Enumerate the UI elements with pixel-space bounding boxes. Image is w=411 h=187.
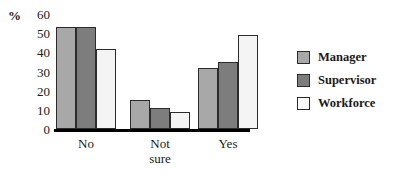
bar-chart: % 6050403020100 ManagerSupervisorWorkfor… — [0, 0, 411, 187]
y-axis-tick-0: 0 — [28, 123, 50, 136]
y-axis-tick-60: 60 — [28, 8, 50, 21]
x-axis-label-line: Yes — [191, 136, 265, 151]
x-axis-label-line: sure — [123, 151, 197, 166]
bar-supervisor-not-sure[interactable] — [150, 108, 170, 129]
bar-manager-no[interactable] — [56, 27, 76, 129]
legend-swatch-manager — [297, 51, 310, 64]
legend-label-supervisor: Supervisor — [318, 73, 376, 88]
bar-group-yes — [198, 14, 258, 129]
legend-label-manager: Manager — [318, 50, 367, 65]
bar-group-no — [56, 14, 116, 129]
x-axis-label-yes: Yes — [191, 136, 265, 151]
legend: ManagerSupervisorWorkforce — [297, 47, 409, 116]
plot-area — [56, 14, 248, 129]
y-axis-tick-50: 50 — [28, 27, 50, 40]
bar-group-not-sure — [130, 14, 190, 129]
y-axis-tick-labels: 6050403020100 — [28, 8, 50, 129]
bar-supervisor-yes[interactable] — [218, 62, 238, 129]
legend-item-manager[interactable]: Manager — [297, 47, 409, 67]
bar-manager-not-sure[interactable] — [130, 100, 150, 129]
legend-swatch-supervisor — [297, 74, 310, 87]
x-axis-label-no: No — [49, 136, 123, 151]
bar-supervisor-no[interactable] — [76, 27, 96, 129]
x-axis-label-line: No — [49, 136, 123, 151]
x-axis-baseline — [54, 129, 250, 132]
y-axis-tick-30: 30 — [28, 66, 50, 79]
legend-label-workforce: Workforce — [318, 96, 375, 111]
legend-item-workforce[interactable]: Workforce — [297, 93, 409, 113]
y-axis-tick-40: 40 — [28, 46, 50, 59]
y-axis-unit-label: % — [8, 8, 21, 24]
bar-manager-yes[interactable] — [198, 68, 218, 129]
bar-workforce-not-sure[interactable] — [170, 112, 190, 129]
bar-workforce-yes[interactable] — [238, 35, 258, 129]
bar-workforce-no[interactable] — [96, 49, 116, 130]
y-axis-tick-10: 10 — [28, 104, 50, 117]
x-axis-label-not-sure: Notsure — [123, 136, 197, 166]
legend-swatch-workforce — [297, 97, 310, 110]
y-axis-tick-20: 20 — [28, 85, 50, 98]
legend-item-supervisor[interactable]: Supervisor — [297, 70, 409, 90]
x-axis-label-line: Not — [123, 136, 197, 151]
